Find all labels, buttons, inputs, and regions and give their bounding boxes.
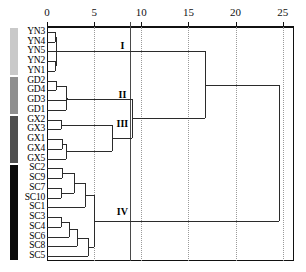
dendrogram-link bbox=[47, 42, 55, 43]
dendrogram-link bbox=[47, 178, 62, 179]
dendrogram-link bbox=[88, 247, 95, 248]
gridline-vertical bbox=[188, 27, 189, 261]
dendrogram-link bbox=[69, 229, 77, 230]
dendrogram-link bbox=[132, 118, 206, 119]
dendrogram-link bbox=[279, 85, 280, 221]
x-axis-tick-label: 20 bbox=[230, 7, 241, 18]
dendrogram-link bbox=[61, 125, 112, 126]
dendrogram-link bbox=[61, 193, 74, 194]
dendrogram-link bbox=[77, 238, 87, 239]
dendrogram-link bbox=[62, 173, 74, 174]
dendrogram-link bbox=[47, 120, 61, 121]
group-color-bar-gx bbox=[10, 116, 18, 163]
dendrogram-link bbox=[47, 227, 61, 228]
dendrogram-link bbox=[61, 222, 69, 223]
cluster-label-ii: II bbox=[119, 89, 127, 100]
dendrogram-link bbox=[56, 51, 205, 52]
gridline-vertical bbox=[236, 27, 237, 261]
dendrogram-link bbox=[112, 138, 132, 139]
dendrogram-link bbox=[47, 168, 62, 169]
cluster-label-iii: III bbox=[117, 118, 129, 129]
leaf-label: SC5 bbox=[29, 251, 45, 261]
plot-frame bbox=[47, 27, 294, 261]
group-color-bar-yn bbox=[10, 28, 18, 75]
cluster-label-iv: IV bbox=[117, 206, 128, 217]
cut-line bbox=[130, 22, 131, 261]
dendrogram-link bbox=[56, 86, 66, 87]
dendrogram-link bbox=[47, 217, 61, 218]
x-axis-tick-label: 5 bbox=[91, 7, 97, 18]
dendrogram-link bbox=[66, 151, 112, 152]
dendrogram-link bbox=[47, 246, 77, 247]
dendrogram-link bbox=[85, 195, 94, 196]
dendrogram-link bbox=[47, 81, 56, 82]
dendrogram-link bbox=[47, 129, 61, 130]
dendrogram-link bbox=[47, 159, 66, 160]
dendrogram-link bbox=[47, 188, 61, 189]
x-axis-tick-label: 15 bbox=[183, 7, 194, 18]
dendrogram-figure: 0510152025YN3YN4YN5YN2YN1GD2GD4GD3GD1GX2… bbox=[0, 0, 306, 272]
dendrogram-link bbox=[47, 237, 69, 238]
dendrogram-link bbox=[47, 71, 55, 72]
dendrogram-link bbox=[47, 51, 56, 52]
group-color-bar-sc bbox=[10, 165, 18, 261]
dendrogram-link bbox=[47, 149, 62, 150]
gridline-vertical bbox=[283, 27, 284, 261]
x-axis-tick-label: 10 bbox=[136, 7, 147, 18]
dendrogram-link bbox=[47, 100, 67, 101]
dendrogram-link bbox=[47, 139, 62, 140]
x-axis-tick-label: 0 bbox=[44, 7, 50, 18]
dendrogram-link bbox=[47, 256, 88, 257]
x-axis-line bbox=[47, 26, 294, 27]
dendrogram-link bbox=[47, 110, 66, 111]
dendrogram-link bbox=[47, 198, 61, 199]
dendrogram-link bbox=[47, 207, 85, 208]
dendrogram-link bbox=[205, 85, 279, 86]
dendrogram-link bbox=[55, 66, 56, 67]
group-color-bar-gd bbox=[10, 77, 18, 114]
gridline-vertical bbox=[141, 27, 142, 261]
dendrogram-link bbox=[74, 183, 84, 184]
dendrogram-link bbox=[47, 61, 55, 62]
x-axis-tick bbox=[47, 22, 48, 27]
dendrogram-link bbox=[94, 221, 279, 222]
x-axis-tick-label: 25 bbox=[277, 7, 288, 18]
dendrogram-link bbox=[47, 32, 55, 33]
cluster-label-i: I bbox=[120, 40, 124, 51]
dendrogram-link bbox=[47, 90, 56, 91]
